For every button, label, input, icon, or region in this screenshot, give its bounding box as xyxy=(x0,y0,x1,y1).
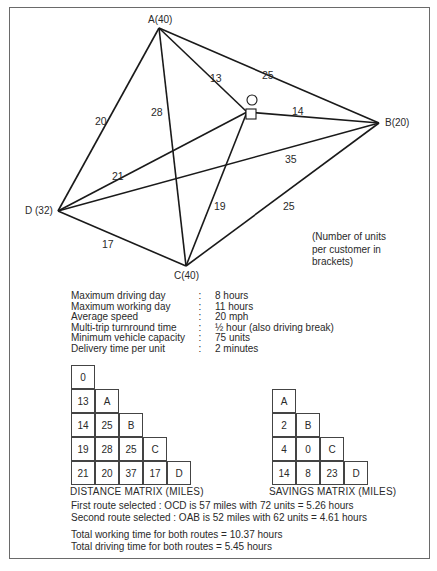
edge-distance-label: 14 xyxy=(292,106,304,117)
edge-distance-label: 35 xyxy=(285,154,297,165)
savings-matrix-cell: 2 xyxy=(272,413,296,437)
edge-distance-label: 20 xyxy=(95,116,107,127)
savings-matrix-cell: C xyxy=(320,437,344,461)
param-label: Delivery time per unit xyxy=(71,344,193,355)
edge-D-C xyxy=(58,211,186,266)
distance-matrix-cell: 28 xyxy=(95,437,119,461)
second-route-text: Second route selected : OAB is 52 miles … xyxy=(71,512,367,524)
edge-distance-label: 19 xyxy=(214,201,226,212)
parameters-list: Maximum driving day:8 hours Maximum work… xyxy=(71,291,334,355)
results-summary: First route selected : OCD is 57 miles w… xyxy=(71,500,367,552)
node-label-c: C(40) xyxy=(174,271,199,281)
distance-matrix-cell: 37 xyxy=(119,461,143,485)
distance-matrix-cell: 25 xyxy=(95,413,119,437)
depot-square-icon xyxy=(246,109,256,119)
distance-matrix-cell: 14 xyxy=(71,413,95,437)
savings-matrix-cell: 23 xyxy=(320,461,344,485)
parameter-row: Maximum driving day:8 hours xyxy=(71,291,334,302)
distance-matrix-cell: 19 xyxy=(71,437,95,461)
total-working-text: Total working time for both routes = 10.… xyxy=(71,529,367,541)
savings-matrix-cell: 8 xyxy=(296,461,320,485)
edge-distance-label: 13 xyxy=(210,73,222,84)
savings-matrix-cell: D xyxy=(344,461,368,485)
node-label-a: A(40) xyxy=(148,15,172,25)
savings-matrix-cell: 4 xyxy=(272,437,296,461)
param-label: Maximum driving day xyxy=(71,291,193,302)
distance-matrix-cell: C xyxy=(143,437,167,461)
param-value: 8 hours xyxy=(207,291,248,302)
savings-matrix-cell: A xyxy=(272,389,296,413)
edge-distance-label: 21 xyxy=(112,171,124,182)
distance-matrix-cell: 17 xyxy=(143,461,167,485)
note-line: (Number of units xyxy=(312,231,386,244)
edge-A-O xyxy=(159,28,247,112)
units-note: (Number of units per customer in bracket… xyxy=(312,231,386,269)
distance-matrix-cell: 25 xyxy=(119,437,143,461)
parameter-row: Delivery time per unit:2 minutes xyxy=(71,344,334,355)
savings-matrix-cell: 0 xyxy=(296,437,320,461)
note-line: per customer in xyxy=(312,244,386,257)
distance-matrix-cell: 20 xyxy=(95,461,119,485)
first-route-text: First route selected : OCD is 57 miles w… xyxy=(71,500,367,512)
edge-O-D xyxy=(58,112,247,211)
distance-matrix-cell: A xyxy=(95,389,119,413)
edge-B-D xyxy=(58,123,379,211)
distance-matrix-cell: 21 xyxy=(71,461,95,485)
distance-matrix-cell: B xyxy=(119,413,143,437)
distance-matrix-cell: 13 xyxy=(71,389,95,413)
savings-matrix-cell: 14 xyxy=(272,461,296,485)
total-driving-text: Total driving time for both routes = 5.4… xyxy=(71,541,367,553)
param-value: 2 minutes xyxy=(207,344,258,355)
node-label-d: D (32) xyxy=(25,206,53,216)
note-line: brackets) xyxy=(312,256,386,269)
edge-distance-label: 25 xyxy=(262,70,274,81)
edge-distance-label: 28 xyxy=(151,107,163,118)
savings-matrix-caption: SAVINGS MATRIX (MILES) xyxy=(269,486,396,497)
edge-distance-label: 25 xyxy=(283,201,295,212)
distance-matrix-cell: D xyxy=(167,461,191,485)
edge-A-C xyxy=(159,28,186,266)
edge-distance-label: 17 xyxy=(102,239,114,250)
node-label-b: B(20) xyxy=(385,118,409,128)
savings-matrix-cell: B xyxy=(296,413,320,437)
edge-A-D xyxy=(58,28,159,211)
distance-matrix-cell: 0 xyxy=(71,365,95,389)
distance-matrix-caption: DISTANCE MATRIX (MILES) xyxy=(70,486,204,497)
depot-circle-icon xyxy=(247,95,257,105)
